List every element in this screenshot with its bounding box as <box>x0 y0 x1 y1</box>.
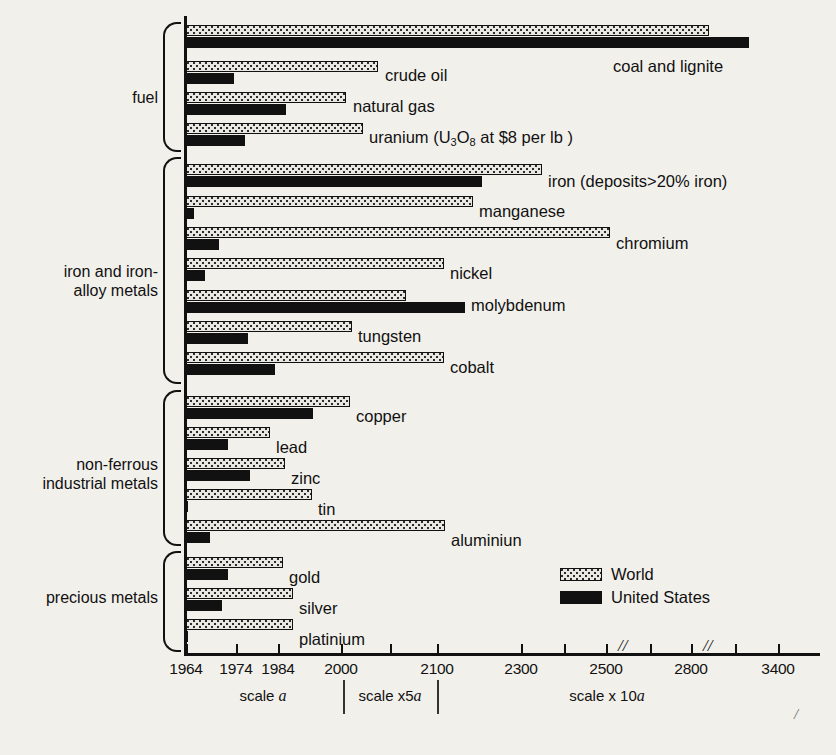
bar-label-gold: gold <box>289 568 320 587</box>
bar-label-platinium: platinium <box>299 630 365 649</box>
legend-swatch-united-states <box>560 591 602 604</box>
bar-label-cobalt: cobalt <box>450 358 494 377</box>
stray-mark: / <box>794 706 798 723</box>
bar-world-zinc <box>186 458 285 469</box>
bar-world-copper <box>186 396 350 407</box>
bar-us-cobalt <box>186 364 275 375</box>
x-tick-minor-2 <box>650 644 652 653</box>
x-tick-label-2300: 2300 <box>504 660 537 678</box>
bar-world-nickel <box>186 258 444 269</box>
bar-us-tungsten <box>186 333 248 344</box>
x-tick-3400 <box>778 644 780 653</box>
legend-label-world: World <box>611 565 654 584</box>
bar-label-silver: silver <box>299 599 338 618</box>
bar-label-manganese: manganese <box>479 202 565 221</box>
bar-us-gold <box>186 569 228 580</box>
group-label-iron-and-iron-alloy-metals: iron and iron- alloy metals <box>0 262 158 300</box>
bar-label-copper: copper <box>356 407 406 426</box>
bar-world-gold <box>186 557 283 568</box>
group-label-non-ferrous-industrial-metals: non-ferrous industrial metals <box>0 455 158 493</box>
bar-us-uranium-u3o8-at-8-per-lb <box>186 135 245 146</box>
x-tick-label-1974: 1974 <box>219 660 252 678</box>
axis-break-1: // <box>703 636 712 656</box>
x-tick-1974 <box>236 644 238 653</box>
bar-us-crude-oil <box>186 73 234 84</box>
bar-world-manganese <box>186 196 473 207</box>
bar-world-cobalt <box>186 352 444 363</box>
bar-world-platinium <box>186 619 293 630</box>
bar-label-aluminiun: aluminiun <box>451 531 522 550</box>
group-brace-precious-metals <box>163 551 181 652</box>
scale-label-1: scale x5a <box>358 687 421 705</box>
x-tick-2800 <box>691 644 693 653</box>
x-tick-label-1964: 1964 <box>169 660 202 678</box>
scale-divider-1 <box>437 680 439 714</box>
x-tick-2100 <box>437 644 439 653</box>
group-brace-iron-and-iron-alloy-metals <box>163 157 181 384</box>
bar-label-crude-oil: crude oil <box>385 66 447 85</box>
group-brace-fuel <box>163 22 181 152</box>
bar-us-manganese <box>186 208 194 219</box>
x-tick-label-2500: 2500 <box>589 660 622 678</box>
scale-divider-0 <box>343 680 345 714</box>
x-tick-minor-1 <box>564 644 566 653</box>
bar-us-aluminiun <box>186 532 210 543</box>
bar-label-tungsten: tungsten <box>358 327 421 346</box>
group-label-precious-metals: precious metals <box>0 588 158 607</box>
bar-label-tin: tin <box>318 500 335 519</box>
legend-item-world: World <box>560 566 710 583</box>
x-tick-1964 <box>186 644 188 653</box>
x-tick-label-2000: 2000 <box>324 660 357 678</box>
bar-label-natural-gas: natural gas <box>353 97 435 116</box>
bar-us-natural-gas <box>186 104 286 115</box>
bar-label-zinc: zinc <box>291 469 320 488</box>
bar-world-crude-oil <box>186 61 378 72</box>
scale-label-0: scale a <box>239 687 286 705</box>
bar-us-chromium <box>186 239 219 250</box>
bar-world-natural-gas <box>186 92 346 103</box>
bar-us-coal-and-lignite <box>186 37 749 48</box>
x-tick-1984 <box>278 644 280 653</box>
group-brace-non-ferrous-industrial-metals <box>163 390 181 546</box>
bar-label-nickel: nickel <box>450 264 492 283</box>
x-tick-label-1984: 1984 <box>261 660 294 678</box>
bar-label-iron-deposits-20-iron: iron (deposits>20% iron) <box>548 172 727 191</box>
bar-world-iron-deposits-20-iron <box>186 164 542 175</box>
bar-us-zinc <box>186 470 250 481</box>
bar-world-molybdenum <box>186 290 406 301</box>
bar-label-molybdenum: molybdenum <box>471 296 565 315</box>
bar-label-coal-and-lignite: coal and lignite <box>613 57 723 76</box>
bar-label-chromium: chromium <box>616 234 688 253</box>
bar-us-lead <box>186 439 228 450</box>
bar-label-uranium-u3o8-at-8-per-lb: uranium (U3O8 at $8 per lb ) <box>369 128 573 147</box>
x-tick-minor-0 <box>390 644 392 653</box>
bar-us-iron-deposits-20-iron <box>186 176 482 187</box>
x-tick-minor-3 <box>735 644 737 653</box>
scale-label-2: scale x 10a <box>569 687 645 705</box>
axis-break-0: // <box>618 636 627 656</box>
bar-world-tin <box>186 489 312 500</box>
x-tick-label-3400: 3400 <box>761 660 794 678</box>
x-tick-2500 <box>606 644 608 653</box>
x-tick-label-2100: 2100 <box>420 660 453 678</box>
x-axis-line <box>184 653 820 656</box>
bar-label-lead: lead <box>276 438 307 457</box>
x-tick-label-2800: 2800 <box>674 660 707 678</box>
legend-label-united-states: United States <box>611 588 710 607</box>
bar-chart: 196419741984200021002300250028003400 ///… <box>0 0 836 755</box>
bar-us-tin <box>186 501 188 512</box>
bar-world-silver <box>186 588 293 599</box>
bar-us-nickel <box>186 270 205 281</box>
bar-world-tungsten <box>186 321 352 332</box>
x-tick-2300 <box>521 644 523 653</box>
bar-world-uranium-u3o8-at-8-per-lb <box>186 123 363 134</box>
bar-us-molybdenum <box>186 302 465 313</box>
bar-us-platinium <box>186 631 188 642</box>
bar-world-lead <box>186 427 270 438</box>
bar-world-chromium <box>186 227 610 238</box>
legend-item-united-states: United States <box>560 589 710 606</box>
bar-world-coal-and-lignite <box>186 25 709 36</box>
bar-world-aluminiun <box>186 520 445 531</box>
group-label-fuel: fuel <box>0 88 158 107</box>
legend: World United States <box>560 566 710 612</box>
